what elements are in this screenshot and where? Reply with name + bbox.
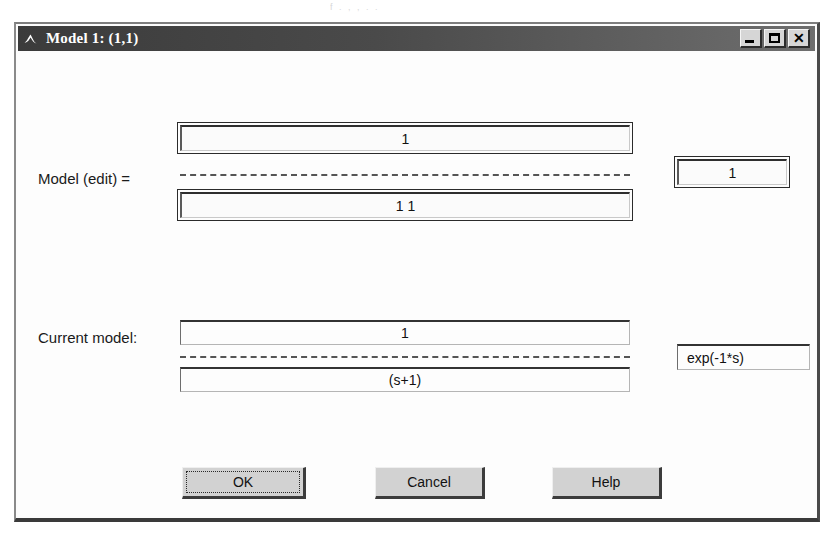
current-model-delay-value: exp(-1*s) (677, 344, 810, 370)
model-edit-label: Model (edit) = (38, 170, 130, 187)
title-bar[interactable]: Model 1: (1,1) ✕ (18, 26, 815, 51)
minimize-button[interactable] (740, 29, 762, 48)
model-edit-numerator-input[interactable]: 1 (180, 125, 630, 151)
current-model-numerator-value: 1 (180, 320, 630, 345)
model-edit-delay-input[interactable]: 1 (677, 159, 787, 185)
scan-artifact: f . , , . . (0, 0, 840, 22)
close-button[interactable]: ✕ (788, 29, 810, 48)
model-dialog-window: Model 1: (1,1) ✕ Model (edit) = 1 1 1 1 … (14, 22, 820, 522)
close-icon: ✕ (793, 31, 805, 45)
window-title: Model 1: (1,1) (46, 30, 138, 47)
maximize-button[interactable] (764, 29, 786, 48)
matlab-membrane-icon (23, 31, 39, 47)
artifact-text: f . , , . . (330, 2, 380, 12)
current-model-label: Current model: (38, 329, 137, 346)
current-model-denominator-value: (s+1) (180, 367, 630, 392)
current-model-fraction-bar (180, 356, 630, 358)
dialog-client-area: Model (edit) = 1 1 1 1 Current model: 1 … (18, 53, 815, 516)
minimize-icon (745, 40, 754, 43)
model-edit-denominator-input[interactable]: 1 1 (180, 192, 630, 218)
ok-button[interactable]: OK (182, 467, 306, 499)
window-controls: ✕ (740, 29, 810, 48)
cancel-button[interactable]: Cancel (375, 467, 485, 499)
help-button[interactable]: Help (552, 467, 662, 499)
maximize-icon (769, 33, 780, 43)
model-edit-fraction-bar (180, 174, 630, 176)
